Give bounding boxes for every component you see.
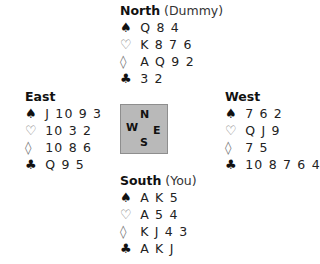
hand-east-title: East (25, 88, 102, 105)
diamonds-row: ◊ K J 4 3 (120, 223, 197, 240)
heart-icon: ♡ (225, 122, 240, 139)
compass-west-label: W (126, 121, 138, 134)
hand-south: South (You) ♠ A K 5 ♡ A 5 4 ◊ K J 4 3 ♣ … (120, 172, 197, 257)
club-cards: A K J (140, 241, 174, 256)
spades-row: ♠ A K 5 (120, 189, 197, 206)
compass-north-label: N (140, 108, 149, 121)
clubs-row: ♣ 10 8 7 6 4 (225, 156, 320, 173)
clubs-row: ♣ A K J (120, 240, 197, 257)
spade-icon: ♠ (120, 19, 135, 36)
hand-north-title: North (Dummy) (120, 2, 223, 19)
club-cards: 10 8 7 6 4 (245, 157, 320, 172)
compass-south-label: S (140, 136, 148, 149)
hearts-row: ♡ A 5 4 (120, 206, 197, 223)
player-role: (Dummy) (164, 3, 223, 18)
player-role: (You) (165, 173, 196, 188)
compass: N W E S (120, 104, 168, 154)
diamond-icon: ◊ (25, 139, 40, 156)
hearts-row: ♡ 10 3 2 (25, 122, 102, 139)
player-name: South (120, 173, 161, 188)
spade-icon: ♠ (225, 105, 240, 122)
club-icon: ♣ (225, 156, 240, 173)
diamond-icon: ◊ (120, 53, 135, 70)
diamond-cards: K J 4 3 (140, 224, 188, 239)
compass-east-label: E (153, 124, 161, 137)
spade-icon: ♠ (25, 105, 40, 122)
club-cards: Q 9 5 (45, 157, 85, 172)
hearts-row: ♡ K 8 7 6 (120, 36, 223, 53)
spade-cards: J 10 9 3 (45, 106, 102, 121)
heart-cards: A 5 4 (140, 207, 178, 222)
diamond-icon: ◊ (225, 139, 240, 156)
player-name: North (120, 3, 160, 18)
diamonds-row: ◊ 7 5 (225, 139, 320, 156)
spade-cards: 7 6 2 (245, 106, 283, 121)
diamond-cards: 7 5 (245, 140, 268, 155)
diamond-cards: 10 8 6 (45, 140, 92, 155)
hand-north: North (Dummy) ♠ Q 8 4 ♡ K 8 7 6 ◊ A Q 9 … (120, 2, 223, 87)
hand-west: West ♠ 7 6 2 ♡ Q J 9 ◊ 7 5 ♣ 10 8 7 6 4 (225, 88, 320, 173)
hand-east: East ♠ J 10 9 3 ♡ 10 3 2 ◊ 10 8 6 ♣ Q 9 … (25, 88, 102, 173)
diamonds-row: ◊ 10 8 6 (25, 139, 102, 156)
spades-row: ♠ Q 8 4 (120, 19, 223, 36)
spades-row: ♠ 7 6 2 (225, 105, 320, 122)
club-cards: 3 2 (140, 71, 163, 86)
club-icon: ♣ (120, 70, 135, 87)
player-name: East (25, 89, 55, 104)
hand-west-title: West (225, 88, 320, 105)
hearts-row: ♡ Q J 9 (225, 122, 320, 139)
clubs-row: ♣ 3 2 (120, 70, 223, 87)
heart-icon: ♡ (120, 206, 135, 223)
hand-south-title: South (You) (120, 172, 197, 189)
heart-cards: 10 3 2 (45, 123, 92, 138)
club-icon: ♣ (120, 240, 135, 257)
club-icon: ♣ (25, 156, 40, 173)
spades-row: ♠ J 10 9 3 (25, 105, 102, 122)
diamond-cards: A Q 9 2 (140, 54, 195, 69)
heart-icon: ♡ (120, 36, 135, 53)
heart-cards: K 8 7 6 (140, 37, 192, 52)
spade-cards: A K 5 (140, 190, 179, 205)
diamonds-row: ◊ A Q 9 2 (120, 53, 223, 70)
diamond-icon: ◊ (120, 223, 135, 240)
spade-icon: ♠ (120, 189, 135, 206)
clubs-row: ♣ Q 9 5 (25, 156, 102, 173)
heart-cards: Q J 9 (245, 123, 280, 138)
spade-cards: Q 8 4 (140, 20, 180, 35)
heart-icon: ♡ (25, 122, 40, 139)
player-name: West (225, 89, 260, 104)
